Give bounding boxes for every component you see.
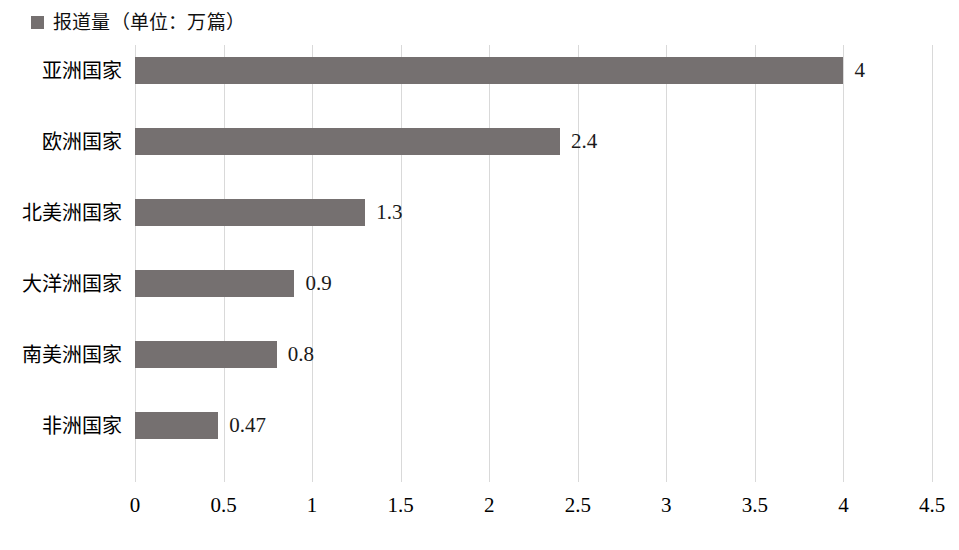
bar	[135, 199, 365, 226]
bar	[135, 341, 277, 368]
plot-area: 42.41.30.90.80.47	[135, 45, 932, 482]
bar-row: 0.47	[135, 412, 932, 439]
bar	[135, 57, 843, 84]
category-label: 北美洲国家	[22, 199, 122, 226]
bar	[135, 128, 560, 155]
category-label: 欧洲国家	[42, 128, 122, 155]
bar-value-label: 1.3	[376, 202, 402, 223]
x-tick-label: 1	[307, 495, 318, 516]
bar-series: 42.41.30.90.80.47	[135, 45, 932, 482]
bar	[135, 412, 218, 439]
x-tick-label: 2.5	[565, 495, 591, 516]
x-tick-label: 4	[838, 495, 849, 516]
category-label: 南美洲国家	[22, 341, 122, 368]
category-axis-labels: 亚洲国家欧洲国家北美洲国家大洋洲国家南美洲国家非洲国家	[0, 45, 122, 482]
bar-row: 1.3	[135, 199, 932, 226]
bar-row: 0.9	[135, 270, 932, 297]
bar-chart: 报道量（单位：万篇） 亚洲国家欧洲国家北美洲国家大洋洲国家南美洲国家非洲国家 4…	[0, 0, 959, 550]
gridline	[932, 45, 933, 482]
bar-value-label: 0.9	[305, 273, 331, 294]
x-tick-label: 4.5	[919, 495, 945, 516]
x-tick-label: 1.5	[388, 495, 414, 516]
category-label: 非洲国家	[42, 412, 122, 439]
x-tick-label: 3	[661, 495, 672, 516]
chart-legend: 报道量（单位：万篇）	[31, 8, 245, 36]
category-label: 亚洲国家	[42, 57, 122, 84]
bar-row: 0.8	[135, 341, 932, 368]
bar-row: 4	[135, 57, 932, 84]
category-label: 大洋洲国家	[22, 270, 122, 297]
bar-value-label: 2.4	[571, 131, 597, 152]
bar	[135, 270, 294, 297]
legend-label: 报道量（单位：万篇）	[53, 13, 245, 32]
bar-value-label: 0.8	[288, 344, 314, 365]
x-tick-label: 2	[484, 495, 495, 516]
legend-swatch-icon	[31, 16, 44, 29]
bar-value-label: 4	[854, 60, 865, 81]
bar-row: 2.4	[135, 128, 932, 155]
x-tick-label: 0	[130, 495, 141, 516]
x-tick-label: 0.5	[210, 495, 236, 516]
x-axis-tick-labels: 00.511.522.533.544.5	[135, 495, 932, 527]
bar-value-label: 0.47	[229, 415, 266, 436]
x-tick-label: 3.5	[742, 495, 768, 516]
